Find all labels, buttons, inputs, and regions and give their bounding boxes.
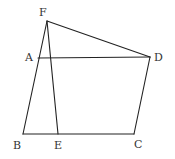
label-C: C bbox=[134, 138, 142, 151]
segment-FB bbox=[23, 21, 47, 134]
label-E: E bbox=[54, 139, 62, 152]
segment-FD bbox=[47, 21, 150, 57]
segment-AD bbox=[38, 57, 150, 58]
label-A: A bbox=[24, 51, 34, 64]
label-F: F bbox=[39, 6, 47, 19]
segment-FE bbox=[47, 21, 58, 134]
geometry-diagram: F A D B E C bbox=[0, 0, 175, 159]
segment-DC bbox=[134, 57, 150, 134]
label-D: D bbox=[154, 51, 163, 64]
label-B: B bbox=[13, 139, 21, 152]
